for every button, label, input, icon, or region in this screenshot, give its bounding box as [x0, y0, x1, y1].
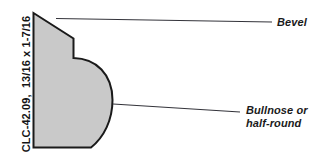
callout-bullnose-line-1: Bullnose or [246, 104, 308, 116]
callout-label-bevel: Bevel [277, 16, 307, 29]
molding-profile-figure: CLC-42.09, 13/16 x 1-7/16 Bevel Bullnose… [0, 0, 321, 161]
molding-profile-shape [34, 13, 113, 148]
leader-line-bevel [56, 19, 272, 23]
callout-bullnose-line-2: half-round [246, 117, 301, 129]
spec-dimension-label: CLC-42.09, 13/16 x 1-7/16 [20, 14, 32, 154]
callout-label-bullnose: Bullnose orhalf-round [246, 104, 308, 130]
profile-drawing [0, 0, 321, 161]
leader-line-bullnose [113, 104, 240, 112]
